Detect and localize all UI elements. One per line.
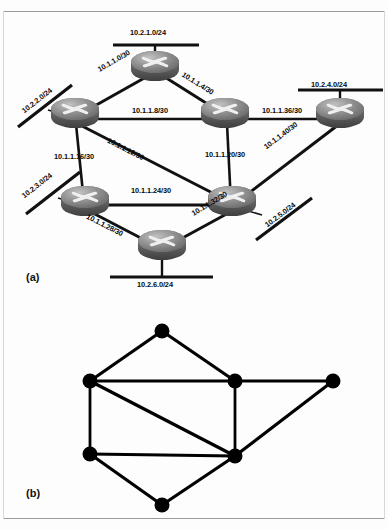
label-10-1-1-20-30: 10.1.1.20/30	[205, 150, 245, 159]
graph-node-n6[interactable]	[228, 449, 243, 464]
label-10-1-1-8-30: 10.1.1.8/30	[132, 106, 168, 115]
graph-edge-n5-n7	[90, 454, 162, 505]
graph-edge-n2-n6	[90, 381, 235, 456]
router-R1[interactable]	[131, 51, 179, 81]
panel-a-caption: (a)	[26, 271, 39, 283]
stub-bar-10-2-5-0-24	[256, 198, 312, 240]
label-10-1-1-16-30: 10.1.1.16/30	[54, 152, 94, 161]
topology-links	[75, 72, 338, 248]
graph-node-n4[interactable]	[326, 374, 341, 389]
graph-node-n3[interactable]	[228, 374, 243, 389]
graph-edge-n6-n4	[235, 381, 333, 456]
figure-container: 10.2.1.0/24 10.1.1.0/30 10.1.1.4/30 10.2…	[0, 0, 388, 530]
graph-edge-n2-n1	[90, 331, 162, 381]
label-10-2-6-0-24: 10.2.6.0/24	[137, 280, 173, 289]
graph-node-n1[interactable]	[155, 324, 170, 339]
panel-b-caption: (b)	[26, 487, 40, 499]
router-R2[interactable]	[51, 98, 99, 128]
graph-edge-n1-n3	[162, 331, 235, 381]
graph-edges	[90, 331, 333, 505]
graph-edge-n7-n6	[162, 456, 235, 505]
graph-nodes	[83, 324, 341, 513]
label-10-1-1-24-30: 10.1.1.24/30	[131, 186, 171, 195]
graph-node-n2[interactable]	[83, 374, 98, 389]
label-10-2-4-0-24: 10.2.4.0/24	[311, 80, 347, 89]
router-R7[interactable]	[138, 230, 186, 260]
graph-node-n7[interactable]	[155, 498, 170, 513]
label-10-1-1-36-30: 10.1.1.36/30	[262, 106, 302, 115]
graph-node-n5[interactable]	[83, 447, 98, 462]
router-R5[interactable]	[61, 186, 109, 216]
router-R4[interactable]	[316, 98, 364, 128]
graph-edge-n5-n6	[90, 454, 235, 456]
label-10-2-1-0-24: 10.2.1.0/24	[130, 28, 166, 37]
router-R3[interactable]	[201, 98, 249, 128]
